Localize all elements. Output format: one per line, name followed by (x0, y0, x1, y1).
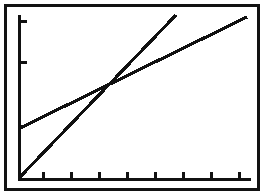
plot-area (11, 11, 253, 184)
calculator-screen (0, 0, 264, 195)
plot-line-steep (20, 15, 176, 177)
plot-lines (11, 11, 253, 184)
plot-line-shallow (20, 17, 247, 128)
